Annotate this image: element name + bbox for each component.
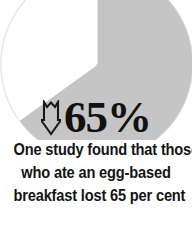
caption-line-1: One study found that those (13, 138, 178, 161)
caption: One study found that those who ate an eg… (0, 138, 192, 207)
statistic-infographic: 65% One study found that those who ate a… (0, 0, 192, 226)
down-arrow-icon (41, 100, 61, 136)
stat-value: 65% (64, 95, 151, 140)
caption-line-3: breakfast lost 65 per cent (13, 184, 178, 207)
caption-line-2: who ate an egg-based (13, 161, 178, 184)
stat-row: 65% (0, 92, 192, 142)
